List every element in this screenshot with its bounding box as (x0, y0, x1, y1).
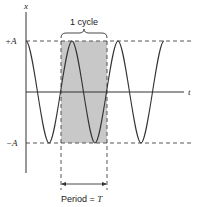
period-label-text: Period = (61, 194, 97, 204)
period-arrow-right-head (102, 182, 107, 186)
cycle-label: 1 cycle (70, 18, 98, 27)
period-symbol: T (97, 194, 102, 204)
y-axis-label: x (24, 2, 28, 11)
shm-diagram: x t +A −A 1 cycle Period = T (0, 0, 198, 207)
t-axis-label: t (188, 88, 191, 97)
period-arrow-left-head (61, 182, 66, 186)
plus-amplitude-label: +A (5, 37, 17, 46)
period-label: Period = T (61, 195, 102, 204)
shm-plot (0, 0, 198, 207)
cycle-brace (61, 29, 107, 38)
minus-amplitude-label: −A (6, 139, 18, 148)
